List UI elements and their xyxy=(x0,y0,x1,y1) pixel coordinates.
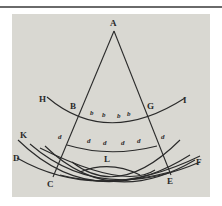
arc-L xyxy=(67,145,157,152)
label-b-4: b xyxy=(127,110,131,118)
label-C: C xyxy=(47,179,54,189)
label-G: G xyxy=(147,101,154,111)
label-d-2: d xyxy=(87,137,91,145)
label-d-1: d xyxy=(58,133,62,141)
label-E: E xyxy=(167,176,173,186)
label-d-6: d xyxy=(161,133,165,141)
label-d-3: d xyxy=(103,139,107,147)
label-H: H xyxy=(39,94,46,104)
geometry-figure: A B G H I K D C E F L b b b b d d d d d … xyxy=(0,0,222,206)
label-L: L xyxy=(104,154,110,164)
label-b-2: b xyxy=(102,111,106,119)
label-I: I xyxy=(183,95,187,105)
line-AE xyxy=(114,31,171,175)
arc-m2 xyxy=(40,148,155,176)
arc-HI xyxy=(47,97,185,123)
label-A: A xyxy=(110,18,117,28)
labels: A B G H I K D C E F L b b b b d d d d d … xyxy=(13,18,202,189)
label-F: F xyxy=(196,157,202,167)
label-K: K xyxy=(20,130,27,140)
label-D: D xyxy=(13,153,20,163)
label-b-1: b xyxy=(90,109,94,117)
label-b-3: b xyxy=(117,112,121,120)
label-B: B xyxy=(70,101,76,111)
label-d-4: d xyxy=(121,139,125,147)
label-d-5: d xyxy=(137,137,141,145)
